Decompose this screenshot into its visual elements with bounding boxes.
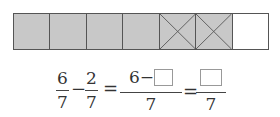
- fraction-blank-over-seven: 7: [196, 66, 226, 113]
- bar-cell-4-shaded: [123, 14, 159, 49]
- bar-cell-3-shaded: [87, 14, 123, 49]
- numerator: 6: [57, 70, 68, 87]
- fraction-two-sevenths: 2 7: [85, 70, 98, 111]
- fraction-six-sevenths: 6 7: [56, 70, 69, 111]
- minus-sign: −: [71, 80, 86, 98]
- numerator: 6−: [129, 66, 173, 86]
- fraction-line: [85, 90, 98, 91]
- fraction-bar-model: [13, 13, 269, 50]
- fraction-line: [120, 92, 182, 93]
- denominator: 7: [206, 96, 217, 113]
- fraction-six-minus-blank-over-seven: 6− 7: [120, 66, 182, 113]
- denominator: 7: [57, 94, 68, 111]
- bar-cell-5-crossed: [160, 14, 196, 49]
- cross-out-icon: [196, 14, 231, 49]
- bar-cell-2-shaded: [50, 14, 86, 49]
- equals-sign-1: =: [103, 80, 118, 98]
- answer-blank-box-1[interactable]: [154, 69, 173, 86]
- numerator: [200, 66, 222, 86]
- cross-out-icon: [160, 14, 195, 49]
- fraction-line: [56, 90, 69, 91]
- numerator-prefix: 6−: [129, 69, 154, 86]
- denominator: 7: [146, 96, 157, 113]
- bar-cell-7-empty: [233, 14, 268, 49]
- bar-cell-6-crossed: [196, 14, 232, 49]
- denominator: 7: [86, 94, 97, 111]
- fraction-line: [196, 92, 226, 93]
- numerator: 2: [86, 70, 97, 87]
- bar-cell-1-shaded: [14, 14, 50, 49]
- answer-blank-box-2[interactable]: [200, 69, 222, 86]
